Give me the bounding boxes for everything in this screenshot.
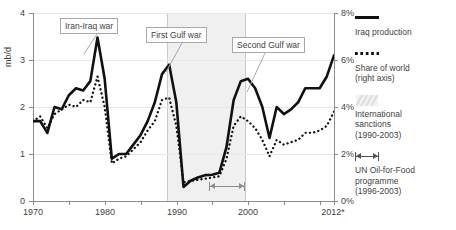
x-tick-1980 <box>105 201 106 205</box>
y-axis-left-label-4: 4 <box>1 8 25 18</box>
x-tick-2010 <box>320 201 321 205</box>
span-arrowhead-left-icon <box>210 183 215 189</box>
legend-label-iraq-production: Iraq production <box>355 27 456 38</box>
legend-item-international-sanctions: International sanctions (1990-2003) <box>355 91 456 141</box>
y-axis-right-label-2: 2% <box>341 149 354 159</box>
y-axis-left-label-1: 1 <box>1 149 25 159</box>
legend-line-0: Iraq production <box>355 27 456 38</box>
legend-label-oil-for-food: UN Oil-for-Food programme (1996-2003) <box>355 165 456 197</box>
legend-line-0: UN Oil-for-Food <box>355 165 456 176</box>
x-tick-1990 <box>177 201 178 205</box>
span-cap-right <box>244 182 245 191</box>
x-tick-1975 <box>69 201 70 205</box>
series-share-of-world-line <box>33 76 334 182</box>
x-axis-label-1990: 1990 <box>147 207 207 217</box>
x-tick-1970 <box>33 201 34 205</box>
span-arrowhead-right-icon <box>239 183 244 189</box>
y-tick-right-4 <box>334 107 338 108</box>
x-axis <box>33 201 335 202</box>
legend-line-2: (1990-2003) <box>355 130 456 141</box>
dotted-line-icon <box>355 49 379 57</box>
y-axis-title: mb/d <box>3 37 13 77</box>
x-axis-label-1980: 1980 <box>75 207 135 217</box>
hatched-band-icon <box>355 95 379 103</box>
annotation-iran-iraq-war: Iran-Iraq war <box>60 18 118 34</box>
annotation-first-gulf-war: First Gulf war <box>146 27 207 43</box>
legend-item-iraq-production: Iraq production <box>355 9 456 38</box>
x-tick-2012 <box>334 201 335 205</box>
series-iraq-production-line <box>33 37 334 186</box>
legend-item-oil-for-food: UN Oil-for-Food programme (1996-2003) <box>355 147 456 197</box>
y-tick-right-2 <box>334 154 338 155</box>
x-axis-label-1970: 1970 <box>3 207 63 217</box>
x-axis-label-2000: 2000 <box>218 207 278 217</box>
y-axis-right-label-4: 4% <box>341 102 354 112</box>
y-tick-right-6 <box>334 60 338 61</box>
x-tick-1995 <box>212 201 213 205</box>
legend-item-share-of-world: Share of world (right axis) <box>355 45 456 84</box>
x-tick-2005 <box>284 201 285 205</box>
y-axis-right-label-6: 6% <box>341 55 354 65</box>
oil-for-food-span-arrow <box>209 182 245 191</box>
x-tick-2000 <box>248 201 249 205</box>
legend-line-1: (right axis) <box>355 73 456 84</box>
legend-line-0: International <box>355 109 456 120</box>
legend-label-international-sanctions: International sanctions (1990-2003) <box>355 109 456 141</box>
y-axis-right-label-8: 8% <box>341 8 354 18</box>
x-axis-label-2012: 2012* <box>303 207 363 217</box>
legend-line-2: (1996-2003) <box>355 186 456 197</box>
annotation-second-gulf-war: Second Gulf war <box>232 37 305 53</box>
legend-line-1: sanctions <box>355 119 456 130</box>
legend-line-0: Share of world <box>355 63 456 74</box>
y-tick-right-8 <box>334 13 338 14</box>
chart-legend: Iraq production Share of world (right ax… <box>355 9 456 204</box>
y-axis-right-label-0: 0% <box>341 196 354 206</box>
span-arrow-icon <box>355 151 379 159</box>
legend-line-1: programme <box>355 176 456 187</box>
x-tick-1985 <box>141 201 142 205</box>
chart-figure: 4 3 2 1 0 8% 6% 4% 2% 0% 1970 1980 1990 … <box>0 0 456 230</box>
solid-line-icon <box>355 13 379 21</box>
legend-label-share-of-world: Share of world (right axis) <box>355 63 456 84</box>
y-axis-left-label-0: 0 <box>1 196 25 206</box>
y-axis-left-label-2: 2 <box>1 102 25 112</box>
chart-canvas: 4 3 2 1 0 8% 6% 4% 2% 0% 1970 1980 1990 … <box>0 0 350 230</box>
